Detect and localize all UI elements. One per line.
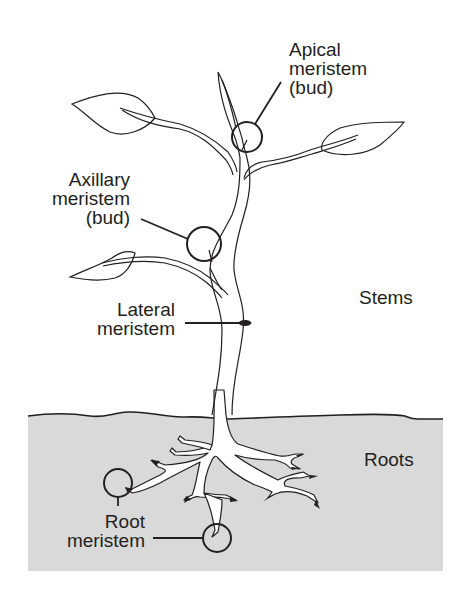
- axillary-meristem-leader: [141, 219, 188, 239]
- stem: [210, 72, 250, 415]
- axillary-meristem-label: Axillary meristem (bud): [30, 170, 130, 227]
- lateral-label-line-1: Lateral: [60, 300, 175, 319]
- root-label-line-2: meristem: [40, 531, 145, 550]
- axillary-label-line-1: Axillary: [30, 170, 130, 189]
- lateral-meristem-ring: [239, 321, 251, 326]
- stems-region-label: Stems: [359, 288, 413, 307]
- apical-meristem-circle: [232, 122, 262, 152]
- axillary-label-line-3: (bud): [30, 208, 130, 227]
- leaf-upper-left: [72, 93, 237, 175]
- apical-label-line-3: (bud): [289, 78, 367, 97]
- apical-label-line-2: meristem: [289, 59, 367, 78]
- leaf-upper-right: [244, 122, 404, 180]
- lateral-meristem-callout: [185, 321, 251, 326]
- roots-region-label: Roots: [364, 450, 414, 469]
- axillary-meristem-circle: [187, 227, 221, 261]
- axillary-label-line-2: meristem: [30, 189, 130, 208]
- root-label-line-1: Root: [40, 512, 145, 531]
- apical-meristem-callout: [232, 82, 281, 152]
- lateral-meristem-label: Lateral meristem: [60, 300, 175, 338]
- apical-meristem-label: Apical meristem (bud): [289, 40, 367, 97]
- lateral-label-line-2: meristem: [60, 319, 175, 338]
- apical-meristem-leader: [255, 82, 281, 124]
- apical-label-line-1: Apical: [289, 40, 367, 59]
- axillary-meristem-callout: [141, 219, 221, 262]
- leaf-lower-left: [70, 252, 228, 298]
- root-meristem-label: Root meristem: [40, 512, 145, 550]
